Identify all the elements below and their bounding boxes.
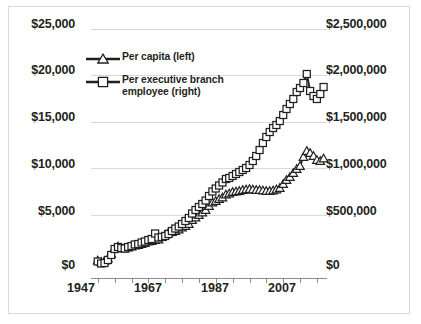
- legend-label-per-capita: Per capita (left): [122, 51, 195, 63]
- y-right-tick-4: $2,000,000: [326, 63, 387, 77]
- y-right-tick-0: $0: [326, 258, 340, 272]
- data-point: [300, 80, 307, 87]
- legend-item-per-capita: Per capita (left): [85, 51, 275, 65]
- x-tick-label-2007: 2007: [254, 281, 310, 295]
- y-left-tick-2: $10,000: [9, 157, 75, 171]
- y-right-tick-1: $500,000: [326, 204, 377, 218]
- y-left-tick-1: $5,000: [9, 204, 75, 218]
- chart-screenshot: $25,000 $20,000 $15,000 $10,000 $5,000 $…: [0, 0, 421, 324]
- y-left-tick-5: $25,000: [9, 17, 75, 31]
- x-tick-label-1947: 1947: [53, 281, 109, 295]
- y-right-tick-5: $2,500,000: [326, 17, 387, 31]
- y-right-tick-2: $1,000,000: [326, 157, 387, 171]
- x-tick-label-1967: 1967: [120, 281, 176, 295]
- chart-frame: $25,000 $20,000 $15,000 $10,000 $5,000 $…: [8, 6, 410, 314]
- data-point: [320, 84, 327, 91]
- chart-legend: Per capita (left) Per executive branch e…: [85, 51, 275, 107]
- y-left-tick-4: $20,000: [9, 63, 75, 77]
- legend-item-per-executive-branch-employee: Per executive branch employee (right): [85, 74, 275, 98]
- triangle-marker-icon: [85, 52, 121, 66]
- y-right-tick-3: $1,500,000: [326, 110, 387, 124]
- data-point: [290, 96, 297, 103]
- data-point: [256, 147, 263, 154]
- legend-label-per-executive-branch-employee: Per executive branch employee (right): [122, 74, 262, 98]
- y-left-tick-0: $0: [9, 258, 75, 272]
- square-marker-icon: [85, 75, 121, 89]
- data-point: [303, 71, 310, 78]
- x-tick-label-1987: 1987: [187, 281, 243, 295]
- y-left-tick-3: $15,000: [9, 110, 75, 124]
- data-point: [317, 91, 324, 98]
